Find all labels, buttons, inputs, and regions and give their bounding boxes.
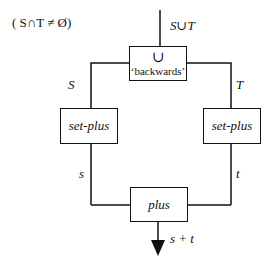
dataflow-diagram: ( S∩T ≠ Ø) S∪T ∪ ‘backwards’ S T set-plu… xyxy=(0,0,277,262)
left-output-label: s xyxy=(79,167,84,180)
condition-label: ( S∩T ≠ Ø) xyxy=(12,16,71,29)
union-caption: ‘backwards’ xyxy=(131,65,185,77)
union-backwards-box: ∪ ‘backwards’ xyxy=(129,46,187,81)
right-set-plus-box: set-plus xyxy=(203,108,261,144)
plus-label: plus xyxy=(148,197,170,213)
arrow-down-icon xyxy=(151,240,165,256)
top-input-label: S∪T xyxy=(170,19,195,32)
right-set-plus-label: set-plus xyxy=(212,118,252,134)
left-input-label: S xyxy=(68,78,75,91)
right-output-label: t xyxy=(236,167,240,180)
union-symbol: ∪ xyxy=(152,50,165,65)
output-label: s + t xyxy=(170,232,194,245)
right-input-label: T xyxy=(236,78,243,91)
plus-box: plus xyxy=(130,187,188,222)
left-set-plus-label: set-plus xyxy=(69,118,109,134)
left-set-plus-box: set-plus xyxy=(60,108,118,144)
